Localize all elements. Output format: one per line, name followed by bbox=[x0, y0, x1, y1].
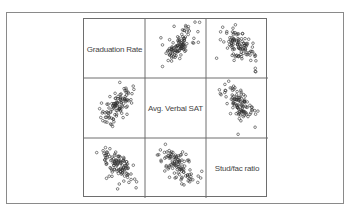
scatter-panel-r0c1 bbox=[160, 21, 201, 68]
scatter-panel-r2c1 bbox=[156, 143, 203, 186]
scatter-points-layer bbox=[84, 19, 268, 198]
scatter-panel-r0c2 bbox=[215, 24, 257, 74]
scatterplot-matrix: Graduation Rate Avg. Verbal SAT Stud/fac… bbox=[83, 18, 267, 197]
scatter-panel-r1c0 bbox=[98, 81, 135, 128]
scatter-panel-r2c0 bbox=[95, 146, 137, 190]
scatter-panel-r1c2 bbox=[218, 80, 259, 136]
